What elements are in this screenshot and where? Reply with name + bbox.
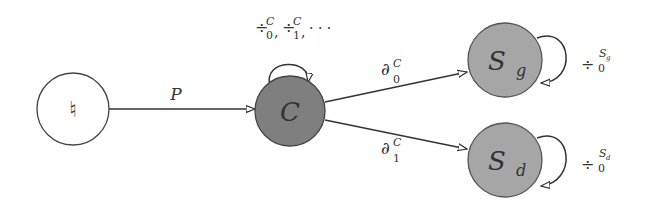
node-sd: S d bbox=[468, 123, 542, 197]
svg-text:÷: ÷ bbox=[581, 155, 594, 174]
svg-text:C: C bbox=[393, 57, 402, 70]
node-c: C bbox=[255, 76, 325, 146]
edge-c-self-loop: ÷ C 0 , ÷ C 1 , · · · bbox=[255, 15, 331, 86]
svg-text:C: C bbox=[280, 97, 300, 127]
state-diagram: ♮ P ÷ C 0 , ÷ C 1 , · · · C ∂ C 0 ∂ bbox=[0, 0, 648, 207]
svg-text:1: 1 bbox=[393, 152, 400, 165]
svg-text:÷: ÷ bbox=[581, 55, 594, 74]
svg-text:S: S bbox=[488, 146, 506, 176]
svg-text:d: d bbox=[516, 161, 526, 180]
svg-text:S: S bbox=[488, 46, 506, 76]
edge-c-to-sd: ∂ C 1 bbox=[325, 120, 467, 165]
svg-text:g: g bbox=[606, 54, 611, 62]
svg-text:,: , bbox=[301, 24, 305, 40]
svg-text:0: 0 bbox=[266, 29, 273, 42]
edge-label-c-loop: ÷ C 0 , ÷ C 1 , · · · bbox=[255, 15, 331, 42]
svg-text:d: d bbox=[606, 154, 611, 162]
edge-c-to-sg: ∂ C 0 bbox=[325, 57, 467, 102]
svg-text:C: C bbox=[393, 136, 402, 149]
svg-text:0: 0 bbox=[598, 62, 605, 75]
svg-text:∂: ∂ bbox=[381, 59, 390, 79]
edge-sd-self-loop: ÷ S d 0 bbox=[537, 136, 611, 186]
svg-text:0: 0 bbox=[393, 73, 400, 86]
edge-sg-self-loop: ÷ S g 0 bbox=[537, 36, 611, 83]
node-sg: S g bbox=[468, 23, 542, 97]
svg-text:· · ·: · · · bbox=[309, 20, 331, 36]
svg-text:g: g bbox=[516, 61, 526, 80]
svg-text:,: , bbox=[274, 24, 278, 40]
edge-start-to-c: P bbox=[109, 84, 255, 109]
natural-sign-icon: ♮ bbox=[69, 97, 77, 122]
svg-text:1: 1 bbox=[293, 29, 300, 42]
edge-label-p: P bbox=[169, 84, 182, 104]
svg-text:∂: ∂ bbox=[381, 138, 390, 158]
start-node: ♮ bbox=[37, 73, 109, 145]
svg-text:0: 0 bbox=[598, 162, 605, 175]
